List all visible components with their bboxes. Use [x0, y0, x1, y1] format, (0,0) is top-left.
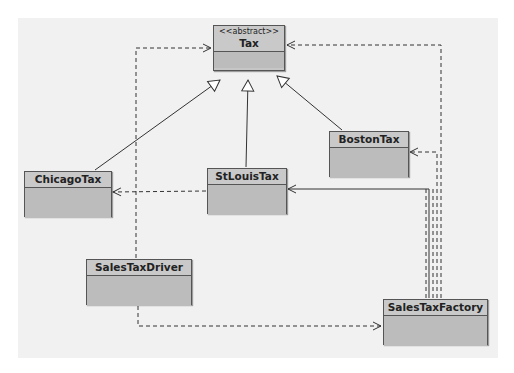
class-tax[interactable]: <<abstract>> Tax	[213, 25, 285, 71]
class-salestaxfactory-body	[384, 316, 487, 346]
class-chicagotax[interactable]: ChicagoTax	[24, 171, 112, 217]
class-salestaxdriver-header: SalesTaxDriver	[87, 260, 191, 276]
class-bostontax-body	[330, 148, 408, 178]
class-stlouistax-body	[208, 185, 286, 215]
class-salestaxdriver-body	[87, 276, 191, 306]
stlouis-to-tax-generalization	[246, 80, 248, 167]
class-bostontax[interactable]: BostonTax	[329, 131, 409, 177]
driver-to-factory-dependency	[138, 306, 381, 326]
class-tax-name: Tax	[239, 37, 259, 49]
chicago-to-tax-generalization	[95, 80, 220, 170]
class-stlouistax[interactable]: StLouisTax	[207, 168, 287, 214]
class-chicagotax-body	[25, 188, 111, 218]
boston-to-tax-generalization	[277, 76, 342, 130]
class-salestaxdriver[interactable]: SalesTaxDriver	[86, 259, 192, 305]
factory-to-stlouis-association	[288, 189, 429, 298]
class-chicagotax-header: ChicagoTax	[25, 172, 111, 188]
class-stlouistax-header: StLouisTax	[208, 169, 286, 185]
class-bostontax-header: BostonTax	[330, 132, 408, 148]
class-tax-body	[214, 52, 284, 68]
class-tax-stereotype: <<abstract>>	[214, 27, 284, 37]
class-salestaxfactory-header: SalesTaxFactory	[384, 300, 487, 316]
class-tax-header: <<abstract>> Tax	[214, 26, 284, 52]
class-salestaxfactory[interactable]: SalesTaxFactory	[383, 299, 488, 345]
stlouis-to-chicago-dependency	[113, 191, 206, 192]
driver-to-tax-dependency	[136, 48, 211, 258]
